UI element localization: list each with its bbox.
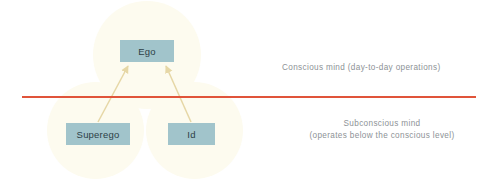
subconscious-annotation-line-2: (operates below the conscious level) — [292, 130, 472, 142]
edge-id-to-ego — [166, 66, 191, 122]
diagram-canvas: Ego Superego Id Conscious mind (day-to-d… — [0, 0, 499, 185]
consciousness-divider-line — [22, 96, 476, 98]
subconscious-annotation-line-1: Subconscious mind — [292, 118, 472, 130]
node-id[interactable]: Id — [168, 123, 215, 145]
edge-superego-to-ego — [98, 66, 128, 122]
subconscious-mind-annotation: Subconscious mind (operates below the co… — [292, 118, 472, 142]
arrow-connectors — [0, 0, 499, 185]
node-ego[interactable]: Ego — [120, 40, 174, 62]
node-superego[interactable]: Superego — [66, 123, 130, 145]
conscious-mind-annotation: Conscious mind (day-to-day operations) — [282, 62, 440, 74]
node-ego-label: Ego — [138, 46, 156, 57]
node-superego-label: Superego — [77, 129, 120, 140]
node-id-label: Id — [187, 129, 195, 140]
